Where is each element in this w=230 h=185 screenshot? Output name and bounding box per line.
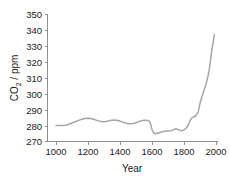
y-tick-label: 330: [26, 41, 42, 52]
y-tick-label: 320: [26, 57, 42, 68]
y-tick-label: 290: [26, 105, 42, 116]
x-tick-label: 1400: [109, 146, 130, 157]
x-tick-label: 1800: [173, 146, 194, 157]
y-axis-title: CO2 / ppm: [9, 55, 22, 102]
y-tick-label: 280: [26, 121, 42, 132]
y-tick-label: 340: [26, 25, 42, 36]
x-axis-title: Year: [122, 163, 143, 174]
svg-text:CO2 / ppm: CO2 / ppm: [9, 55, 22, 102]
co2-chart-figure: 350 340 330 320 310 300 290 280 270 1000…: [0, 0, 230, 185]
co2-series-line: [56, 35, 214, 134]
x-tick-labels: 1000 1200 1400 1600 1800 2000: [45, 146, 226, 157]
y-tick-label: 350: [26, 9, 42, 20]
chart-canvas: 350 340 330 320 310 300 290 280 270 1000…: [0, 0, 230, 185]
x-tick-label: 1600: [141, 146, 162, 157]
y-axis-title-rest: / ppm: [9, 55, 20, 83]
x-tick-label: 2000: [205, 146, 226, 157]
y-axis-title-main: CO: [9, 86, 20, 101]
y-tick-label: 300: [26, 89, 42, 100]
x-tick-label: 1000: [45, 146, 66, 157]
y-tick-label: 270: [26, 136, 42, 147]
y-tick-label: 310: [26, 73, 42, 84]
y-tick-labels: 350 340 330 320 310 300 290 280 270: [26, 9, 42, 148]
x-tick-label: 1200: [77, 146, 98, 157]
